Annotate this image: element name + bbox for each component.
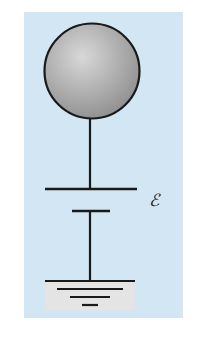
conducting-sphere xyxy=(45,24,140,119)
circuit-diagram: ℰ xyxy=(0,0,202,337)
